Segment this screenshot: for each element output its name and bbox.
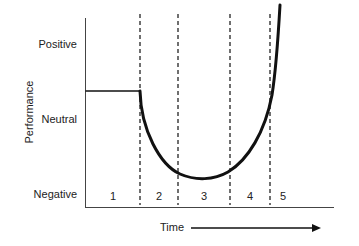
phase-label-1: 1	[107, 190, 119, 202]
phase-label-5: 5	[277, 190, 289, 202]
phase-label-3: 3	[198, 190, 210, 202]
y-tick-neutral: Neutral	[42, 113, 77, 125]
time-arrow-head-icon	[312, 224, 321, 232]
y-tick-negative: Negative	[34, 188, 77, 200]
performance-curve	[140, 5, 280, 179]
phase-label-2: 2	[153, 190, 165, 202]
y-tick-positive: Positive	[38, 38, 77, 50]
phase-label-4: 4	[244, 190, 256, 202]
x-axis-title: Time	[160, 221, 184, 233]
y-axis-title: Performance	[23, 77, 35, 147]
